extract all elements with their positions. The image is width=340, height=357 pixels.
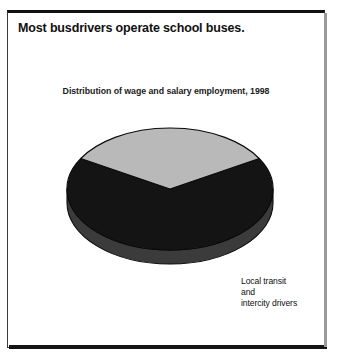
chart-title: Most busdrivers operate school buses. (18, 21, 308, 35)
pie-slice-label-school-busdrivers: School busdrivers (155, 279, 235, 301)
frame-bottom-shadow (9, 345, 327, 349)
pie-chart-svg (60, 116, 280, 276)
pie-slice-label-local-transit: Local transit and intercity drivers (241, 276, 327, 309)
pie-chart: School busdrivers Local transit and inte… (60, 116, 280, 276)
pie-top-face (67, 128, 273, 250)
chart-subtitle: Distribution of wage and salary employme… (16, 86, 316, 97)
